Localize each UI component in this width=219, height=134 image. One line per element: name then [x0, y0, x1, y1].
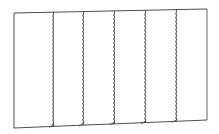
panel [83, 11, 115, 125]
panel [145, 10, 177, 123]
panel [14, 12, 54, 128]
panel-group [14, 9, 207, 128]
panel [176, 9, 207, 121]
panels-diagram [0, 0, 219, 134]
panel [53, 12, 84, 127]
panel [114, 10, 146, 124]
